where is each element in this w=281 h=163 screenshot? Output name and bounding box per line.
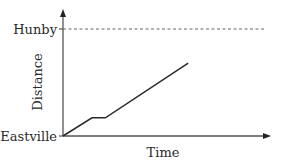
y-tick-label-eastville: Eastville xyxy=(0,129,57,144)
y-axis-arrow-icon xyxy=(60,9,66,17)
y-axis-label: Distance xyxy=(30,53,45,111)
x-axis-label: Time xyxy=(147,145,180,160)
x-axis-arrow-icon xyxy=(263,133,271,139)
y-tick-label-hunby: Hunby xyxy=(13,22,57,37)
series-line-journey xyxy=(63,63,188,136)
series xyxy=(63,63,188,136)
distance-time-chart: EastvilleHunby Distance Time xyxy=(0,0,281,163)
